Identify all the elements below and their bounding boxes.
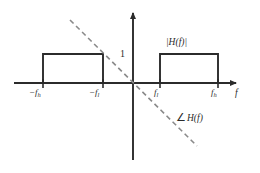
tick-label-pos-fl-sub: l	[157, 91, 159, 98]
x-axis-label: f	[235, 89, 238, 99]
tick-label-neg-fh-text: −f	[29, 87, 38, 97]
phase-curve-label: ∠H(f)	[176, 112, 203, 124]
tick-label-pos-fh: fh	[211, 88, 217, 97]
plot-canvas	[0, 0, 260, 173]
tick-label-pos-fl: fl	[154, 88, 158, 97]
tick-label-neg-fh: −fh	[29, 88, 41, 97]
tick-label-neg-fh-sub: h	[38, 91, 41, 98]
angle-icon: ∠	[176, 111, 186, 123]
tick-label-neg-fl-sub: l	[98, 91, 100, 98]
magnitude-curve-label: |H(f)|	[166, 38, 187, 48]
phase-curve-label-text: H(f)	[187, 113, 203, 123]
tick-label-pos-fh-sub: h	[214, 91, 217, 98]
magnitude-passband-negative	[43, 54, 103, 83]
tick-label-neg-fl: −fl	[89, 88, 99, 97]
y-value-label-one: 1	[120, 49, 125, 59]
tick-label-neg-fl-text: −f	[89, 87, 98, 97]
frequency-response-figure: 1 −fh −fl fl fh f |H(f)| ∠H(f)	[0, 0, 260, 173]
magnitude-passband-positive	[160, 54, 218, 83]
